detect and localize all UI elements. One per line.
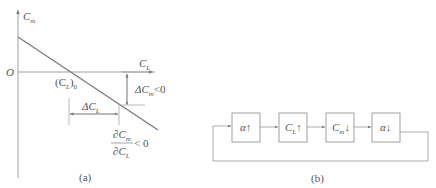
svg-text:∂Cm: ∂Cm (113, 128, 131, 143)
panel-a: Cm CL O (CL)0 ΔCm<0 ΔCL ∂Cm (6, 10, 166, 184)
x-axis-label: CL (139, 57, 150, 72)
block-3-label: Cm↓ (332, 121, 350, 136)
delta-cm-label: ΔCm<0 (134, 83, 166, 98)
delta-cl-label: ΔCL (81, 100, 100, 115)
diagram-canvas: Cm CL O (CL)0 ΔCm<0 ΔCL ∂Cm (0, 0, 436, 188)
block-4-label: α↓ (380, 121, 391, 133)
caption-a: (a) (79, 171, 92, 184)
intercept-label: (CL)0 (55, 76, 78, 91)
derivative-expression: ∂Cm ∂CL < 0 (111, 128, 149, 160)
caption-b: (b) (311, 172, 324, 185)
block-2-label: CL↑ (285, 121, 302, 136)
y-axis-label: Cm (23, 10, 35, 25)
origin-label: O (6, 66, 14, 78)
svg-text:< 0: < 0 (134, 137, 149, 149)
block-1-label: α↑ (240, 121, 251, 133)
panel-b: α↑ CL↑ Cm↓ α↓ (b) (213, 113, 428, 185)
svg-text:∂CL: ∂CL (113, 145, 130, 160)
